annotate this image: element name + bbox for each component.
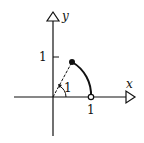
y-tick-label: 1 [39,50,47,64]
terminal-point [69,59,75,65]
x-tick-label: 1 [87,103,95,117]
x-axis-label: x [126,77,133,91]
x-axis-arrow-icon [126,91,135,103]
unit-circle-arc [72,62,91,97]
start-point [88,94,93,99]
y-axis-label: y [61,9,69,23]
angle-label: 1 [64,81,72,95]
unit-circle-diagram: y x 1 1 1 [0,0,144,143]
y-axis-arrow-icon [47,12,59,21]
